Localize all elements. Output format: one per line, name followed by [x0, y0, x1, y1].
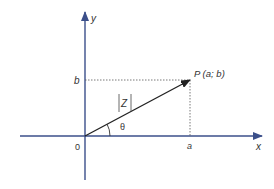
- magnitude-label: Z: [120, 98, 128, 109]
- a-label: a: [187, 141, 192, 151]
- b-label: b: [74, 75, 80, 86]
- origin-label: 0: [75, 142, 80, 152]
- complex-plane-diagram: y x 0 b a P (a; b) Z θ: [0, 0, 274, 189]
- angle-label: θ: [120, 122, 125, 132]
- angle-arc: [107, 124, 110, 136]
- point-p-label: P (a; b): [194, 68, 225, 79]
- x-axis-label: x: [255, 141, 262, 152]
- vector-z: [85, 80, 190, 136]
- y-axis-label: y: [90, 13, 97, 24]
